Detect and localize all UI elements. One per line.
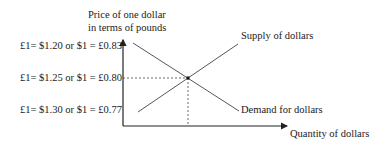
equilibrium-point	[187, 77, 190, 80]
price-level-equilibrium: £1= $1.25 or $1 = £0.80	[20, 72, 122, 84]
demand-curve	[133, 43, 239, 111]
price-level-high: £1= $1.20 or $1 = £0.83	[20, 40, 122, 52]
supply-label: Supply of dollars	[241, 30, 313, 42]
y-axis-label-line2: in terms of pounds	[88, 22, 166, 34]
price-level-low: £1= $1.30 or $1 = £0.77	[20, 104, 122, 116]
y-axis-label-line1: Price of one dollar	[88, 9, 166, 21]
x-axis-label: Quantity of dollars	[290, 128, 369, 140]
exchange-rate-diagram: Price of one dollar in terms of pounds £…	[0, 0, 385, 144]
demand-label: Demand for dollars	[241, 104, 323, 116]
